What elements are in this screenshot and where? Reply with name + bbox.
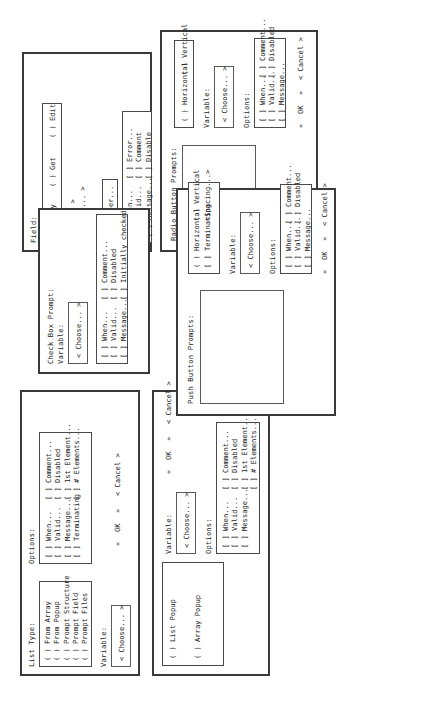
checkbox-option-disabled[interactable]: [ ] Disabled — [109, 249, 118, 300]
pushbutton-variable-choose-label: < Choose... > — [246, 212, 255, 268]
pushbutton-option-comment[interactable]: [ ] Comment... — [284, 164, 293, 224]
radio-prompt-field[interactable]: ( ) Prompt Field — [71, 593, 80, 661]
pushbutton-spacing-button[interactable]: <Spacing...> — [203, 170, 212, 221]
list-type-radio-group: ( ) From Array ( ) From Popup ( ) Prompt… — [39, 581, 92, 667]
checkbox-variable-choose-label: < Choose... > — [74, 302, 83, 358]
pushbutton-ok-right-mark: » — [320, 237, 329, 241]
popup-ok-button[interactable]: OK — [164, 451, 173, 460]
radio-prompt-files[interactable]: ( ) Prompt Files — [80, 593, 89, 661]
field-option-error[interactable]: [ ] Error... — [125, 128, 134, 179]
option-when[interactable]: [ ] When... — [44, 511, 53, 558]
variable-label: Variable: — [99, 627, 108, 667]
list-dialog: List Type: ( ) From Array ( ) From Popup… — [20, 390, 140, 676]
pushbutton-variable-label: Variable: — [228, 234, 237, 274]
radio-options-group: [ ] When... [ ] Valid... [ ] Message... … — [254, 38, 286, 128]
pushbutton-option-when[interactable]: [ ] When... — [284, 221, 293, 268]
checkbox-variable-choose-button[interactable]: < Choose... > — [68, 302, 88, 364]
radio-orientation-vertical[interactable]: ( ) Vertical — [180, 24, 189, 75]
option-1st-element[interactable]: [ ] 1st Element... — [63, 423, 72, 500]
popup-dialog: ( ) List Popup ( ) Array Popup Variable:… — [152, 390, 270, 676]
popup-cancel-button[interactable]: < Cancel > — [164, 381, 173, 424]
checkbox-option-initially-checked[interactable]: [ ] Initially checked — [119, 210, 128, 300]
radio-edit[interactable]: ( ) Edit — [48, 104, 57, 138]
popup-options-label: Options: — [204, 518, 213, 554]
checkbox-option-when[interactable]: [ ] When... — [100, 311, 109, 358]
field-label: Field: — [29, 216, 38, 243]
pushbutton-orientation-group: ( ) Horizontal ( ) Vertical [ ] Terminat… — [188, 182, 220, 274]
radio-ok-right-mark: » — [296, 91, 305, 95]
variable-choose-label: < Choose... > — [117, 605, 126, 661]
option-disabled[interactable]: [ ] Disabled — [53, 449, 62, 500]
pushbutton-option-message[interactable]: [ ] Message... — [303, 208, 312, 268]
options-label: Options: — [27, 528, 36, 564]
popup-option-when[interactable]: [ ] When... — [221, 501, 230, 548]
popup-variable-label: Variable: — [164, 514, 173, 554]
radio-options-label: Options: — [242, 92, 251, 128]
popup-option-valid[interactable]: [ ] Valid... — [230, 497, 239, 548]
pushbutton-dialog: Push Button Prompts: ( ) Horizontal ( ) … — [176, 188, 336, 416]
mockup-sheet: List Type: ( ) From Array ( ) From Popup… — [0, 0, 430, 704]
pushbutton-options-group: [ ] When... [ ] Valid... [ ] Message... … — [280, 184, 312, 274]
popup-variable-choose-label: < Choose... > — [182, 492, 191, 548]
radio-from-popup[interactable]: ( ) From Popup — [52, 601, 61, 661]
radio-prompt-structure[interactable]: ( ) Prompt Structure — [62, 576, 71, 661]
radio-ok-button[interactable]: OK — [296, 105, 305, 114]
pushbutton-title-label: Push Button Prompts: — [186, 315, 195, 404]
option-num-elements[interactable]: [ ] # Elements... — [72, 427, 81, 500]
ok-left-mark: « — [113, 542, 122, 546]
option-comment[interactable]: [ ] Comment... — [44, 440, 53, 500]
radio-from-array[interactable]: ( ) From Array — [43, 601, 52, 661]
ok-right-mark: » — [113, 509, 122, 513]
checkbox-option-message[interactable]: [ ] Message... — [119, 298, 128, 358]
radio-variable-choose-label: < Choose... > — [220, 66, 229, 122]
radio-list-popup[interactable]: ( ) List Popup — [168, 599, 177, 659]
popup-option-comment[interactable]: [ ] Comment... — [221, 430, 230, 490]
popup-option-message[interactable]: [ ] Message... — [240, 488, 249, 548]
variable-choose-button[interactable]: < Choose... > — [111, 605, 131, 667]
radio-get[interactable]: ( ) Get — [48, 157, 57, 187]
option-terminating[interactable]: [ ] Terminating — [72, 494, 81, 558]
pushbutton-variable-choose-button[interactable]: < Choose... > — [240, 212, 260, 274]
checkbox-option-comment[interactable]: [ ] Comment... — [100, 240, 109, 300]
option-message[interactable]: [ ] Message... — [63, 498, 72, 558]
checkbox-dialog: Check Box Prompt: Variable: < Choose... … — [38, 208, 150, 374]
field-option-disable[interactable]: [ ] Disable — [144, 132, 153, 179]
pushbutton-options-label: Options: — [268, 238, 277, 274]
option-valid[interactable]: [ ] Valid... — [53, 507, 62, 558]
popup-variable-choose-button[interactable]: < Choose... > — [176, 492, 196, 554]
popup-option-disabled[interactable]: [ ] Disabled — [230, 439, 239, 490]
popup-option-num-elements[interactable]: [ ] # Elements... — [249, 417, 258, 490]
radio-option-valid[interactable]: [ ] Valid... — [267, 71, 276, 122]
pushbutton-ok-button[interactable]: OK — [320, 251, 329, 260]
radio-option-message[interactable]: [ ] Message... — [277, 62, 286, 122]
pushbutton-cancel-button[interactable]: < Cancel > — [320, 183, 329, 226]
options-group: [ ] When... [ ] Valid... [ ] Message... … — [39, 432, 92, 564]
radio-option-when[interactable]: [ ] When... — [258, 75, 267, 122]
radio-cancel-button[interactable]: < Cancel > — [296, 37, 305, 80]
popup-ok-right-mark: » — [164, 437, 173, 441]
pushbutton-orientation-vertical[interactable]: ( ) Vertical — [192, 170, 201, 221]
radio-array-popup[interactable]: ( ) Array Popup — [193, 595, 202, 659]
radio-variable-choose-button[interactable]: < Choose... > — [214, 66, 234, 128]
radio-ok-left-mark: « — [296, 124, 305, 128]
checkbox-title-label: Check Box Prompt: — [46, 288, 55, 364]
radio-option-disabled[interactable]: [ ] Disabled — [267, 27, 276, 78]
ok-button[interactable]: OK — [113, 523, 122, 532]
popup-option-1st-element[interactable]: [ ] 1st Element... — [240, 413, 249, 490]
popup-ok-left-mark: « — [164, 470, 173, 474]
field-option-comment[interactable]: [ ] Comment — [134, 132, 143, 179]
checkbox-option-valid[interactable]: [ ] Valid... — [109, 307, 118, 358]
pushbutton-option-valid[interactable]: [ ] Valid... — [293, 217, 302, 268]
pushbutton-ok-left-mark: « — [320, 270, 329, 274]
radio-option-comment[interactable]: [ ] Comment... — [258, 18, 267, 78]
radio-variable-label: Variable: — [202, 88, 211, 128]
pushbutton-prompts-list[interactable] — [200, 290, 284, 404]
checkbox-options-group: [ ] When... [ ] Valid... [ ] Message... … — [96, 214, 128, 364]
cancel-button[interactable]: < Cancel > — [113, 453, 122, 496]
popup-options-group: [ ] When... [ ] Valid... [ ] Message... … — [216, 422, 260, 554]
list-type-label: List Type: — [27, 622, 36, 667]
radio-orientation-group: ( ) Horizontal ( ) Vertical — [174, 40, 194, 128]
popup-type-radio-group: ( ) List Popup ( ) Array Popup — [162, 562, 224, 666]
pushbutton-option-disabled[interactable]: [ ] Disabled — [293, 173, 302, 224]
checkbox-variable-label: Variable: — [56, 324, 65, 364]
